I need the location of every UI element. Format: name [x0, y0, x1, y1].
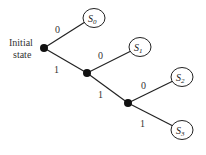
- state-s0: S0: [83, 9, 105, 28]
- edge-label: 1: [98, 89, 103, 100]
- initial-state-label-2: state: [13, 49, 32, 60]
- edge-n3-s3: [128, 103, 173, 126]
- edge-label: 1: [54, 64, 59, 75]
- state-s1: S1: [129, 38, 151, 57]
- state-tree-diagram: S0 S1 S2 S3 0 1 0 1 0 1 Initial state: [0, 0, 206, 155]
- edge-label: 0: [55, 24, 60, 35]
- initial-state-label: Initial: [9, 37, 33, 48]
- edge-n1-n2: [44, 48, 87, 73]
- edge-label: 0: [98, 50, 103, 61]
- edge-n2-n3: [87, 73, 128, 103]
- edge-n1-s0: [44, 22, 85, 48]
- state-s3: S3: [171, 121, 193, 140]
- branch-node-2: [83, 69, 91, 77]
- edge-label: 1: [140, 118, 145, 129]
- edge-n2-s1: [87, 51, 131, 73]
- branch-node-3: [124, 99, 132, 107]
- state-s2: S2: [171, 68, 193, 87]
- branch-node-initial: [40, 44, 48, 52]
- edge-label: 0: [141, 80, 146, 91]
- edge-n3-s2: [128, 81, 173, 103]
